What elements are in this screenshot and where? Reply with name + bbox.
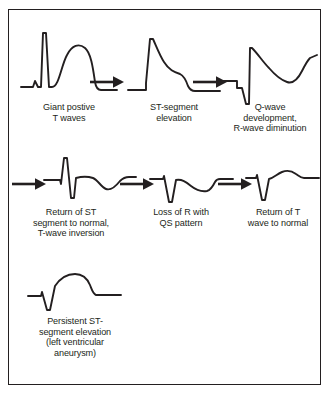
stage-6-caption: Return of T wave to normal [234, 207, 322, 228]
figure-canvas: Giant postive T waves ST-segment elevati… [9, 10, 322, 386]
stage-5-caption-line-2: QS pattern [131, 218, 231, 229]
stage-6-waveform-panel [245, 160, 321, 208]
stage-6-caption-line-2: wave to normal [234, 218, 322, 229]
stage-7-caption-line-4: aneurysm) [19, 348, 131, 359]
stage-4-caption-line-1: Return of ST [15, 207, 127, 218]
stage-5-caption-line-1: Loss of R with [131, 207, 231, 218]
stage-4-caption-line-3: T-wave inversion [15, 228, 127, 239]
stage-7-caption: Persistent ST- segment elevation (left v… [19, 316, 131, 358]
t-wave-normalization-trace [245, 160, 321, 208]
stage-1-caption: Giant postive T waves [15, 102, 123, 123]
persistent-st-elevation-trace [27, 268, 123, 314]
stage-3-caption-line-2: development, [218, 113, 322, 124]
stage-4-caption-line-2: segment to normal, [15, 218, 127, 229]
stage-3-waveform-panel [221, 26, 319, 110]
ecg-evolution-figure: Giant postive T waves ST-segment elevati… [0, 0, 333, 398]
stage-6-caption-line-1: Return of T [234, 207, 322, 218]
stage-1-caption-line-2: T waves [15, 113, 123, 124]
stage-7-caption-line-3: (left ventricular [19, 337, 131, 348]
stage-3-caption-line-3: R-wave diminution [218, 123, 322, 134]
figure-border: Giant postive T waves ST-segment elevati… [8, 9, 321, 385]
stage-5-caption: Loss of R with QS pattern [131, 207, 231, 228]
stage-2-caption-line-2: elevation [125, 113, 223, 124]
right-arrow-icon [89, 74, 129, 90]
stage-1-caption-line-1: Giant postive [15, 102, 123, 113]
q-wave-development-trace [221, 26, 319, 110]
stage-4-caption: Return of ST segment to normal, T-wave i… [15, 207, 127, 239]
stage-2-caption-line-1: ST-segment [125, 102, 223, 113]
stage-7-caption-line-2: segment elevation [19, 327, 131, 338]
stage-3-caption-line-1: Q-wave [218, 102, 322, 113]
stage-3-caption: Q-wave development, R-wave diminution [218, 102, 322, 134]
stage-2-caption: ST-segment elevation [125, 102, 223, 123]
stage-7-caption-line-1: Persistent ST- [19, 316, 131, 327]
stage-7-waveform-panel [27, 268, 123, 314]
progression-arrow-1-to-2 [89, 74, 129, 90]
